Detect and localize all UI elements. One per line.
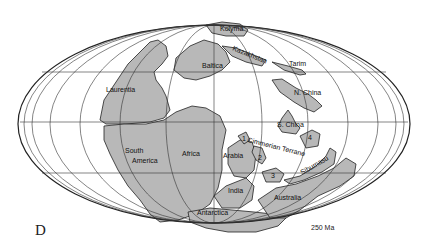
label-america: America <box>132 157 158 164</box>
label-terrane-1: 1 <box>242 135 246 142</box>
label-arabia: Arabia <box>223 152 243 159</box>
label-australia: Australia <box>274 194 301 201</box>
label-n-china: N. China <box>294 89 321 96</box>
label-laurentia: Laurentia <box>106 86 135 93</box>
label-kolyma: Kolyma <box>220 25 243 33</box>
label-baltica: Baltica <box>202 62 223 69</box>
landmass-laurentia <box>100 40 170 124</box>
panel-label: D <box>35 222 46 239</box>
label-tarim: Tarim <box>289 60 306 67</box>
label-terrane-2: 2 <box>258 154 262 161</box>
age-label: 250 Ma <box>311 224 334 231</box>
graticule <box>18 25 410 223</box>
label-s-china: S. China <box>277 121 304 128</box>
label-south: South <box>125 147 143 154</box>
label-africa: Africa <box>182 150 200 157</box>
label-terrane-3: 3 <box>271 172 275 179</box>
paleogeographic-map: Kolyma Kazakhstan Tarim Baltica Laurenti… <box>0 0 428 248</box>
label-india: India <box>228 187 243 194</box>
landmass-arabia <box>228 140 256 178</box>
label-terrane-4: 4 <box>308 134 312 141</box>
label-antarctica: Antarctica <box>197 209 228 216</box>
